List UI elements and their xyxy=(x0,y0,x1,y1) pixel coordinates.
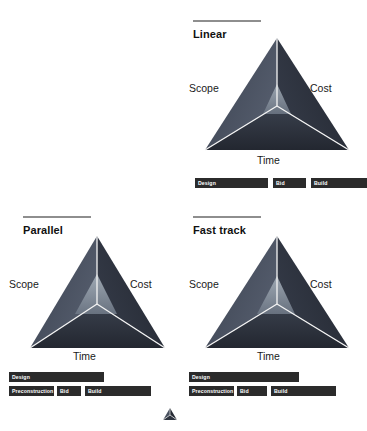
triangle-diagram-linear xyxy=(195,32,360,162)
panel-fast-track: Fast track Scope Cost Time Design Precon… xyxy=(185,210,365,400)
vertex-label-scope: Scope xyxy=(189,278,219,290)
panel-parallel: Parallel Scope Cost Time Design Preconst… xyxy=(5,210,185,400)
title-rule xyxy=(193,20,261,22)
bar-design: Design xyxy=(9,372,104,382)
vertex-label-scope: Scope xyxy=(189,82,219,94)
bar-label: Build xyxy=(88,388,101,394)
vertex-label-cost: Cost xyxy=(130,278,152,290)
bar-label: Bid xyxy=(276,180,285,186)
bar-label: Bid xyxy=(240,388,249,394)
bar-label: Preconstruction xyxy=(192,388,233,394)
vertex-label-cost: Cost xyxy=(310,82,332,94)
vertex-label-scope: Scope xyxy=(9,278,39,290)
bar-label: Preconstruction xyxy=(12,388,53,394)
bar-build: Build xyxy=(311,178,367,188)
bar-preconstruction: Preconstruction xyxy=(9,386,54,396)
bar-build: Build xyxy=(271,386,336,396)
triangle-svg xyxy=(195,228,360,358)
triangle-diagram-fast-track xyxy=(195,228,360,358)
bar-label: Design xyxy=(198,180,216,186)
triangle-mark-icon xyxy=(163,407,177,420)
title-rule xyxy=(23,216,91,218)
triangle-svg xyxy=(195,32,360,162)
triangle-diagram-parallel xyxy=(25,228,190,358)
bar-design: Design xyxy=(195,178,268,188)
bar-bid: Bid xyxy=(237,386,267,396)
vertex-label-time: Time xyxy=(257,154,280,166)
bar-label: Bid xyxy=(60,388,69,394)
bar-preconstruction: Preconstruction xyxy=(189,386,234,396)
triangle-svg xyxy=(25,228,190,358)
vertex-label-cost: Cost xyxy=(310,278,332,290)
vertex-label-time: Time xyxy=(257,350,280,362)
bar-label: Build xyxy=(314,180,327,186)
bar-build: Build xyxy=(85,386,151,396)
panel-linear: Linear xyxy=(185,14,365,204)
bar-design: Design xyxy=(189,372,299,382)
bar-label: Design xyxy=(192,374,210,380)
bar-bid: Bid xyxy=(57,386,81,396)
bar-bid: Bid xyxy=(273,178,306,188)
vertex-label-time: Time xyxy=(73,350,96,362)
bar-label: Design xyxy=(12,374,30,380)
bar-label: Build xyxy=(274,388,287,394)
title-rule xyxy=(193,216,261,218)
